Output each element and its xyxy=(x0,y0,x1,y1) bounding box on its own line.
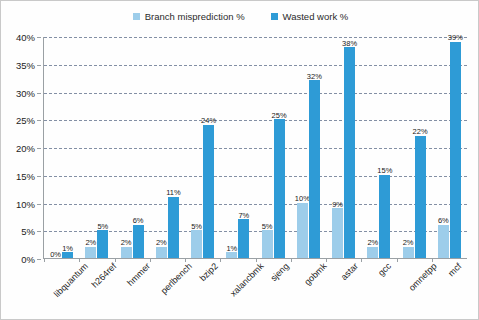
bar-branch-misprediction[interactable]: 9% xyxy=(332,208,343,258)
bar-wasted-work[interactable]: 6% xyxy=(133,225,144,258)
bar-branch-misprediction[interactable]: 2% xyxy=(121,247,132,258)
y-tick-label: 0% xyxy=(21,254,35,265)
x-label-cell: gobmk xyxy=(290,259,325,319)
x-label-cell: perlbench xyxy=(149,259,184,319)
y-tick-label: 10% xyxy=(16,198,35,209)
bar-branch-misprediction[interactable]: 5% xyxy=(191,230,202,258)
legend-item-0[interactable]: Branch misprediction % xyxy=(133,11,245,22)
bar-value-label: 2% xyxy=(367,239,378,247)
bar-value-label: 32% xyxy=(307,73,322,81)
bar-value-label: 1% xyxy=(226,245,237,253)
x-label-cell: hmmer xyxy=(114,259,149,319)
bar-value-label: 15% xyxy=(377,167,392,175)
bar-value-label: 0% xyxy=(50,251,61,259)
x-label-cell: bzip2 xyxy=(184,259,219,319)
x-tick-label: sjeng xyxy=(268,261,290,283)
bar-wasted-work[interactable]: 15% xyxy=(379,175,390,258)
legend-swatch-icon xyxy=(133,13,140,20)
x-tick-label: gobmk xyxy=(302,261,328,287)
bar-value-label: 1% xyxy=(62,245,73,253)
bar-group: 2%6% xyxy=(115,37,150,258)
x-label-cell: xalancbmk xyxy=(220,259,255,319)
bar-wasted-work[interactable]: 5% xyxy=(97,230,108,258)
y-tick-mark xyxy=(37,259,41,260)
bar-value-label: 39% xyxy=(448,34,463,42)
y-tick-label: 15% xyxy=(16,170,35,181)
y-tick-label: 40% xyxy=(16,32,35,43)
y-tick-label: 35% xyxy=(16,59,35,70)
bar-groups: 0%1%2%5%2%6%2%11%5%24%1%7%5%25%10%32%9%3… xyxy=(44,37,467,258)
bar-branch-misprediction[interactable]: 2% xyxy=(85,247,96,258)
bar-wasted-work[interactable]: 38% xyxy=(344,47,355,258)
bar-branch-misprediction[interactable]: 10% xyxy=(297,203,308,259)
y-tick-mark xyxy=(37,148,41,149)
legend-item-1[interactable]: Wasted work % xyxy=(271,11,349,22)
bar-value-label: 2% xyxy=(121,239,132,247)
y-tick-label: 30% xyxy=(16,87,35,98)
bar-group: 2%5% xyxy=(79,37,114,258)
bar-wasted-work[interactable]: 32% xyxy=(309,80,320,258)
bar-branch-misprediction[interactable]: 2% xyxy=(367,247,378,258)
bar-group: 0%1% xyxy=(44,37,79,258)
y-tick-label: 5% xyxy=(21,226,35,237)
bar-value-label: 10% xyxy=(295,195,310,203)
y-tick-mark xyxy=(37,176,41,177)
bar-group: 10%32% xyxy=(291,37,326,258)
x-label-cell: h264ref xyxy=(78,259,113,319)
x-tick-label: bzip2 xyxy=(198,261,220,283)
bar-branch-misprediction[interactable]: 2% xyxy=(156,247,167,258)
x-label-cell: astar xyxy=(326,259,361,319)
bar-value-label: 2% xyxy=(85,239,96,247)
bar-value-label: 2% xyxy=(156,239,167,247)
x-label-cell: mcf xyxy=(432,259,467,319)
bar-wasted-work[interactable]: 22% xyxy=(415,136,426,258)
bar-value-label: 11% xyxy=(166,189,180,197)
bar-value-label: 25% xyxy=(272,112,287,120)
bar-branch-misprediction[interactable]: 1% xyxy=(226,252,237,258)
y-axis: 0%5%10%15%20%25%30%35%40% xyxy=(1,37,41,259)
x-tick-label: astar xyxy=(339,261,360,282)
bar-branch-misprediction[interactable]: 6% xyxy=(438,225,449,258)
y-tick-mark xyxy=(37,93,41,94)
y-tick-label: 25% xyxy=(16,115,35,126)
plot-area: 0%1%2%5%2%6%2%11%5%24%1%7%5%25%10%32%9%3… xyxy=(43,37,467,259)
x-label-cell: libquantum xyxy=(43,259,78,319)
bar-value-label: 38% xyxy=(342,40,357,48)
x-tick-label: gcc xyxy=(376,261,393,278)
y-tick-mark xyxy=(37,65,41,66)
x-label-cell: gcc xyxy=(361,259,396,319)
bar-wasted-work[interactable]: 25% xyxy=(274,119,285,258)
bar-value-label: 5% xyxy=(262,223,273,231)
bar-value-label: 5% xyxy=(97,223,108,231)
bar-wasted-work[interactable]: 24% xyxy=(203,125,214,258)
bar-value-label: 7% xyxy=(238,212,249,220)
bar-group: 5%25% xyxy=(256,37,291,258)
bar-value-label: 24% xyxy=(201,117,216,125)
y-tick-mark xyxy=(37,231,41,232)
bar-wasted-work[interactable]: 39% xyxy=(450,42,461,258)
legend-label: Branch misprediction % xyxy=(145,11,245,22)
y-tick-mark xyxy=(37,120,41,121)
legend-swatch-icon xyxy=(271,13,278,20)
y-tick-label: 20% xyxy=(16,143,35,154)
bar-branch-misprediction[interactable]: 2% xyxy=(403,247,414,258)
x-tick-label: mcf xyxy=(446,261,463,278)
bar-group: 5%24% xyxy=(185,37,220,258)
bar-branch-misprediction[interactable]: 5% xyxy=(262,230,273,258)
bar-value-label: 9% xyxy=(332,201,343,209)
bar-group: 9%38% xyxy=(326,37,361,258)
bar-group: 2%11% xyxy=(150,37,185,258)
bar-value-label: 6% xyxy=(133,217,144,225)
bar-group: 6%39% xyxy=(432,37,467,258)
bar-group: 2%15% xyxy=(361,37,396,258)
bar-group: 2%22% xyxy=(397,37,432,258)
bar-wasted-work[interactable]: 11% xyxy=(168,197,179,258)
x-label-cell: omnetpp xyxy=(396,259,431,319)
bar-wasted-work[interactable]: 7% xyxy=(238,219,249,258)
x-axis: libquantumh264refhmmerperlbenchbzip2xala… xyxy=(43,259,467,319)
legend-label: Wasted work % xyxy=(283,11,349,22)
bar-wasted-work[interactable]: 1% xyxy=(62,252,73,258)
bar-value-label: 6% xyxy=(438,217,449,225)
y-tick-mark xyxy=(37,204,41,205)
bar-value-label: 2% xyxy=(403,239,414,247)
